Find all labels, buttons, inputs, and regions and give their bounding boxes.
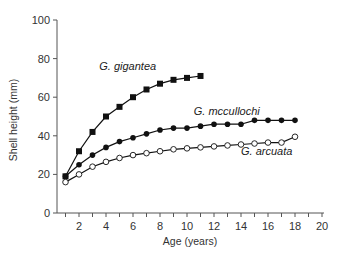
x-tick-label: 16 bbox=[262, 220, 274, 232]
data-point-marker bbox=[184, 146, 190, 152]
data-point-marker bbox=[103, 114, 109, 120]
data-point-marker bbox=[76, 172, 82, 178]
series-label: G. gigantea bbox=[99, 60, 156, 72]
y-tick-label: 40 bbox=[38, 130, 50, 142]
x-axis-label: Age (years) bbox=[163, 235, 217, 247]
data-point-marker bbox=[279, 118, 285, 124]
data-point-marker bbox=[211, 121, 217, 127]
axes: 0204060801002468101214161820 bbox=[32, 14, 328, 232]
data-point-marker bbox=[157, 148, 163, 154]
series-line bbox=[66, 76, 201, 176]
x-tick-label: 4 bbox=[103, 220, 109, 232]
data-point-marker bbox=[76, 148, 82, 154]
data-point-marker bbox=[198, 123, 204, 129]
x-tick-label: 14 bbox=[235, 220, 247, 232]
x-tick-label: 6 bbox=[130, 220, 136, 232]
x-tick-label: 2 bbox=[76, 220, 82, 232]
data-point-marker bbox=[117, 155, 123, 161]
data-point-marker bbox=[90, 129, 96, 135]
x-tick-label: 20 bbox=[316, 220, 328, 232]
data-point-marker bbox=[90, 152, 96, 158]
data-point-marker bbox=[130, 94, 136, 100]
series-g--mccullochi: G. mccullochi bbox=[63, 105, 298, 180]
data-point-marker bbox=[211, 144, 217, 150]
y-axis-label: Shell height (mm) bbox=[7, 79, 19, 161]
data-point-marker bbox=[292, 134, 298, 140]
series-line bbox=[66, 137, 296, 182]
data-point-marker bbox=[252, 118, 258, 124]
data-point-marker bbox=[171, 77, 177, 83]
x-tick-label: 8 bbox=[157, 220, 163, 232]
data-point-marker bbox=[63, 174, 69, 180]
data-point-marker bbox=[117, 104, 123, 110]
data-point-marker bbox=[184, 75, 190, 81]
y-tick-label: 20 bbox=[38, 168, 50, 180]
x-tick-label: 12 bbox=[208, 220, 220, 232]
x-tick-label: 10 bbox=[181, 220, 193, 232]
data-point-marker bbox=[130, 152, 136, 158]
data-point-marker bbox=[198, 73, 204, 79]
series-label: G. mccullochi bbox=[194, 105, 261, 117]
data-point-marker bbox=[76, 162, 82, 168]
data-point-marker bbox=[184, 125, 190, 131]
y-tick-label: 100 bbox=[32, 14, 50, 26]
data-point-marker bbox=[225, 121, 231, 127]
series-g--arcuata: G. arcuata bbox=[63, 134, 298, 185]
data-point-marker bbox=[292, 118, 298, 124]
data-point-marker bbox=[225, 143, 231, 149]
data-point-marker bbox=[144, 131, 150, 137]
data-point-marker bbox=[171, 125, 177, 131]
y-tick-label: 60 bbox=[38, 91, 50, 103]
data-point-marker bbox=[130, 135, 136, 141]
y-tick-label: 0 bbox=[44, 207, 50, 219]
data-point-marker bbox=[103, 159, 109, 165]
data-point-marker bbox=[265, 118, 271, 124]
data-point-marker bbox=[103, 145, 109, 151]
line-chart: 0204060801002468101214161820 G. gigantea… bbox=[0, 0, 343, 261]
data-point-marker bbox=[144, 86, 150, 92]
x-tick-label: 18 bbox=[289, 220, 301, 232]
data-point-marker bbox=[90, 164, 96, 170]
series-label: G. arcuata bbox=[241, 145, 292, 157]
data-point-marker bbox=[117, 139, 123, 145]
data-point-marker bbox=[238, 121, 244, 127]
data-point-marker bbox=[144, 150, 150, 156]
data-point-marker bbox=[63, 179, 69, 185]
data-point-marker bbox=[157, 127, 163, 133]
y-tick-label: 80 bbox=[38, 53, 50, 65]
data-point-marker bbox=[157, 81, 163, 87]
data-point-marker bbox=[198, 145, 204, 151]
data-point-marker bbox=[171, 147, 177, 153]
series-group: G. giganteaG. mccullochiG. arcuata bbox=[63, 60, 298, 185]
